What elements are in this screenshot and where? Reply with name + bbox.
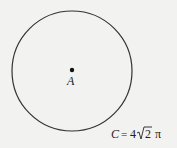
svg-text:=: = — [121, 128, 127, 140]
svg-text:π: π — [155, 127, 161, 141]
circumference-equation: C = 4 2 π — [111, 127, 161, 141]
center-point — [70, 68, 74, 72]
center-label: A — [66, 74, 75, 88]
circle-diagram: A C = 4 2 π — [0, 0, 177, 148]
svg-text:4: 4 — [130, 127, 136, 141]
svg-text:2: 2 — [145, 127, 151, 141]
svg-text:C: C — [111, 127, 120, 141]
